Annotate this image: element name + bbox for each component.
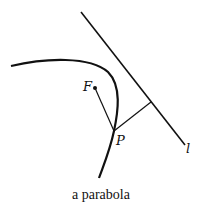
parabola-diagram: F P l a parabola [0, 0, 202, 210]
focus-point [93, 86, 97, 90]
caption: a parabola [0, 188, 202, 202]
parabola-curve [11, 60, 118, 178]
point-label: P [116, 134, 125, 147]
diagram-graphic [0, 0, 202, 210]
focus-to-point-segment [95, 88, 114, 131]
focus-label: F [83, 80, 92, 93]
point-to-directrix-segment [114, 102, 151, 131]
directrix-line [81, 12, 185, 145]
directrix-label: l [186, 142, 190, 155]
